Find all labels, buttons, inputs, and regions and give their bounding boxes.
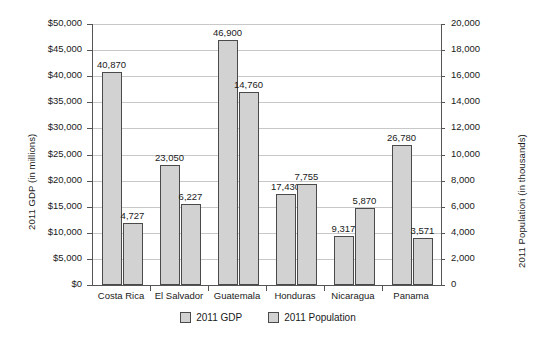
category-label: Costa Rica <box>98 290 144 301</box>
left-tick-label: $0 <box>71 278 82 289</box>
plot-area: 40,8704,72723,0506,22746,90014,76017,430… <box>92 24 442 286</box>
left-tick-label: $40,000 <box>48 69 82 80</box>
gridline <box>93 102 441 103</box>
bar-value-label: 26,780 <box>387 132 416 143</box>
left-axis-title: 2011 GDP (in millions) <box>26 134 37 230</box>
left-tick-label: $50,000 <box>48 17 82 28</box>
bar-value-label: 5,870 <box>353 195 377 206</box>
category-tick-mark <box>266 285 267 291</box>
left-tick-label: $45,000 <box>48 43 82 54</box>
legend-item: 2011 Population <box>268 312 356 323</box>
right-tick-label: 10,000 <box>451 148 480 159</box>
bar-chart: 2011 GDP (in millions) 2011 Population (… <box>0 0 536 339</box>
bar-2011-gdp-panama <box>392 145 412 285</box>
left-tick-label: $15,000 <box>48 200 82 211</box>
bar-value-label: 3,571 <box>411 225 435 236</box>
bar-2011-population-nicaragua <box>355 208 375 285</box>
right-tick-label: 16,000 <box>451 69 480 80</box>
left-tick-label: $20,000 <box>48 174 82 185</box>
gridline <box>93 233 441 234</box>
bar-2011-gdp-nicaragua <box>334 236 354 285</box>
bar-value-label: 46,900 <box>213 27 242 38</box>
bar-value-label: 7,755 <box>295 171 319 182</box>
right-tick-label: 6,000 <box>451 200 475 211</box>
right-tick-label: 4,000 <box>451 226 475 237</box>
gridline <box>93 128 441 129</box>
bar-2011-population-panama <box>413 238 433 285</box>
bar-2011-population-costa-rica <box>123 223 143 285</box>
gridline <box>93 24 441 25</box>
bar-value-label: 9,317 <box>332 223 356 234</box>
category-label: Guatemala <box>214 290 260 301</box>
left-tick-label: $10,000 <box>48 226 82 237</box>
legend-label: 2011 Population <box>284 312 356 323</box>
left-tick-label: $35,000 <box>48 95 82 106</box>
left-tick-label: $25,000 <box>48 148 82 159</box>
right-tick-label: 12,000 <box>451 121 480 132</box>
gridline <box>93 76 441 77</box>
category-tick-mark <box>382 285 383 291</box>
gridline <box>93 155 441 156</box>
bar-value-label: 23,050 <box>155 152 184 163</box>
left-tick-label: $30,000 <box>48 121 82 132</box>
bar-value-label: 4,727 <box>121 210 145 221</box>
gridline <box>93 207 441 208</box>
right-tick-label: 14,000 <box>451 95 480 106</box>
left-tick-label: $5,000 <box>53 252 82 263</box>
bar-2011-population-honduras <box>297 184 317 285</box>
gridline <box>93 181 441 182</box>
category-tick-mark <box>150 285 151 291</box>
right-axis-title: 2011 Population (in thousands) <box>516 134 527 268</box>
right-tick-label: 20,000 <box>451 17 480 28</box>
legend-label: 2011 GDP <box>196 312 242 323</box>
category-label: Honduras <box>274 290 315 301</box>
bar-2011-population-el-salvador <box>181 204 201 285</box>
category-label: Nicaragua <box>331 290 374 301</box>
legend-item: 2011 GDP <box>180 312 242 323</box>
bar-2011-gdp-guatemala <box>218 40 238 285</box>
bar-2011-gdp-honduras <box>276 194 296 285</box>
bar-value-label: 40,870 <box>97 59 126 70</box>
gridline <box>93 259 441 260</box>
chart-legend: 2011 GDP2011 Population <box>0 312 536 323</box>
bar-value-label: 6,227 <box>179 191 203 202</box>
bar-2011-gdp-el-salvador <box>160 165 180 285</box>
gridline <box>93 50 441 51</box>
bar-value-label: 14,760 <box>234 79 263 90</box>
right-tick-label: 8,000 <box>451 174 475 185</box>
category-tick-mark <box>324 285 325 291</box>
category-label: Panama <box>393 290 428 301</box>
right-tick-label: 18,000 <box>451 43 480 54</box>
right-tick-label: 2,000 <box>451 252 475 263</box>
category-label: El Salvador <box>155 290 204 301</box>
right-tick-label: 0 <box>451 278 456 289</box>
legend-swatch-icon <box>180 312 191 323</box>
category-tick-mark <box>208 285 209 291</box>
bar-2011-population-guatemala <box>239 92 259 285</box>
bar-2011-gdp-costa-rica <box>102 72 122 285</box>
legend-swatch-icon <box>268 312 279 323</box>
